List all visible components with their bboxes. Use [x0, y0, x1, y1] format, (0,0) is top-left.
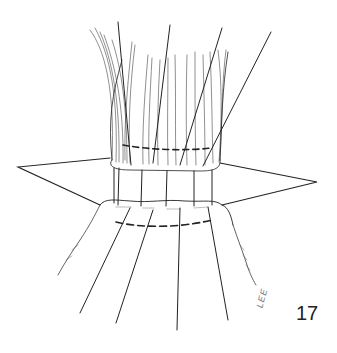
surgical-illustration [0, 0, 337, 353]
illustration-canvas: LEE 17 [0, 0, 337, 353]
figure-number: 17 [296, 302, 318, 325]
